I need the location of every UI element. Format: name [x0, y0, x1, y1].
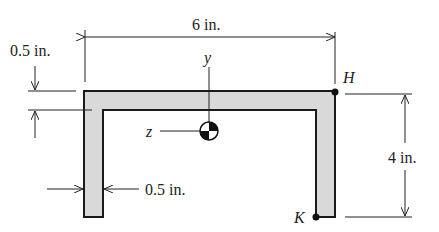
- channel-section-diagram: 6 in. 0.5 in. 0.5 in. 4 in. y z H K: [0, 0, 439, 232]
- width-label: 6 in.: [192, 16, 220, 33]
- point-k-marker: [313, 214, 320, 221]
- y-axis-label: y: [202, 49, 212, 67]
- height-label: 4 in.: [388, 149, 416, 166]
- centroid-icon: [200, 122, 218, 140]
- web-thickness-label: 0.5 in.: [145, 181, 185, 198]
- z-axis-label: z: [145, 123, 153, 140]
- point-h-marker: [332, 89, 339, 96]
- flange-thickness-label: 0.5 in.: [10, 42, 50, 59]
- point-k-label: K: [293, 209, 306, 226]
- point-h-label: H: [342, 69, 356, 86]
